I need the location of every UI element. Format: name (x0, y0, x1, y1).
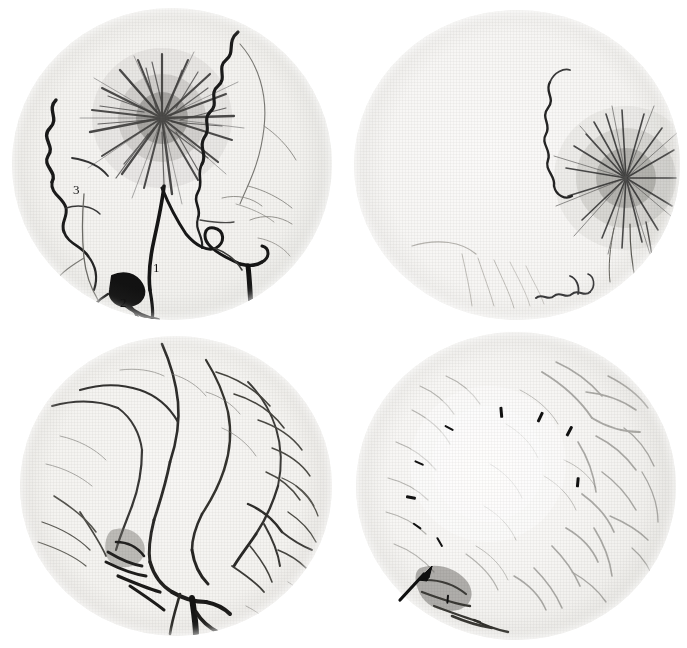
panel-bottom-right (344, 324, 687, 648)
label-marker-1: 1 (153, 261, 160, 274)
angiography-figure: 1 2 3 (0, 0, 687, 648)
film-grain (20, 336, 332, 636)
film-disc-bottom-left (20, 336, 332, 636)
panel-bottom-left (0, 324, 344, 648)
label-marker-2: 2 (120, 296, 127, 309)
film-grain (354, 10, 680, 320)
film-disc-top-left (12, 8, 332, 320)
panel-top-left: 1 2 3 (0, 0, 344, 324)
film-grain (12, 8, 332, 320)
panel-top-right (344, 0, 687, 324)
film-disc-top-right (354, 10, 680, 320)
label-marker-3: 3 (73, 183, 80, 196)
arrow-annotation-bottom-right (394, 562, 440, 604)
